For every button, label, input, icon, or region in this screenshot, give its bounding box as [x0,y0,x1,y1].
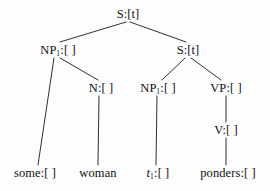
leaf-some-feature: :[ ] [41,166,56,180]
tree-edge-np1_subject-to-leaf_some [38,58,54,165]
tree-edge-root_s-to-np1_subject [60,22,126,42]
leaf-some-base: some [14,166,41,180]
node-n-noun-feature: :[ ] [98,81,113,95]
tree-edge-root_s-to-embedded_s [130,22,186,42]
node-root-s: S:[t] [117,8,140,21]
tree-edge-embedded_s-to-np1_trace_parent [162,58,185,80]
tree-edge-n_noun-to-leaf_woman [98,96,99,165]
node-np1-trace-parent-index: 1 [156,87,160,96]
node-vp-feature: :[ ] [226,81,241,95]
node-vp-base: VP [210,81,226,95]
node-v-base: V [214,123,222,137]
node-n-noun-base: N [89,81,98,95]
node-root-s-feature: :[t] [124,7,140,21]
leaf-woman-base: woman [79,166,116,180]
node-v-feature: :[ ] [222,123,237,137]
node-root-s-base: S [117,7,124,21]
node-np1-trace-parent: NP1:[ ] [140,82,175,95]
leaf-ponders: ponders:[ ] [200,167,256,180]
node-np1-subject-index: 1 [56,49,60,58]
node-np1-trace-parent-feature: :[ ] [160,81,175,95]
tree-edge-np1_subject-to-n_noun [60,58,98,80]
tree-edge-np1_trace_parent-to-leaf_trace [156,96,157,165]
tree-edge-embedded_s-to-vp [191,58,221,80]
node-n-noun: N:[ ] [89,82,113,95]
node-embedded-s: S:[t] [177,44,200,57]
node-np1-subject-base: NP [40,43,56,57]
leaf-some: some:[ ] [14,167,56,180]
tree-edge-layer [0,0,270,191]
syntax-tree-figure: S:[t] NP1:[ ] S:[t] N:[ ] NP1:[ ] VP:[ ]… [0,0,270,191]
leaf-woman: woman [79,167,116,180]
leaf-ponders-feature: :[ ] [240,166,255,180]
leaf-trace-index: 1 [150,172,154,181]
leaf-ponders-base: ponders [200,166,240,180]
node-np1-subject-feature: :[ ] [60,43,75,57]
leaf-trace-feature: :[ ] [154,166,169,180]
node-embedded-s-base: S [177,43,184,57]
leaf-trace: t1:[ ] [147,167,170,180]
node-v: V:[ ] [214,124,238,137]
node-embedded-s-feature: :[t] [184,43,200,57]
node-np1-trace-parent-base: NP [140,81,156,95]
node-vp: VP:[ ] [210,82,242,95]
node-np1-subject: NP1:[ ] [40,44,75,57]
